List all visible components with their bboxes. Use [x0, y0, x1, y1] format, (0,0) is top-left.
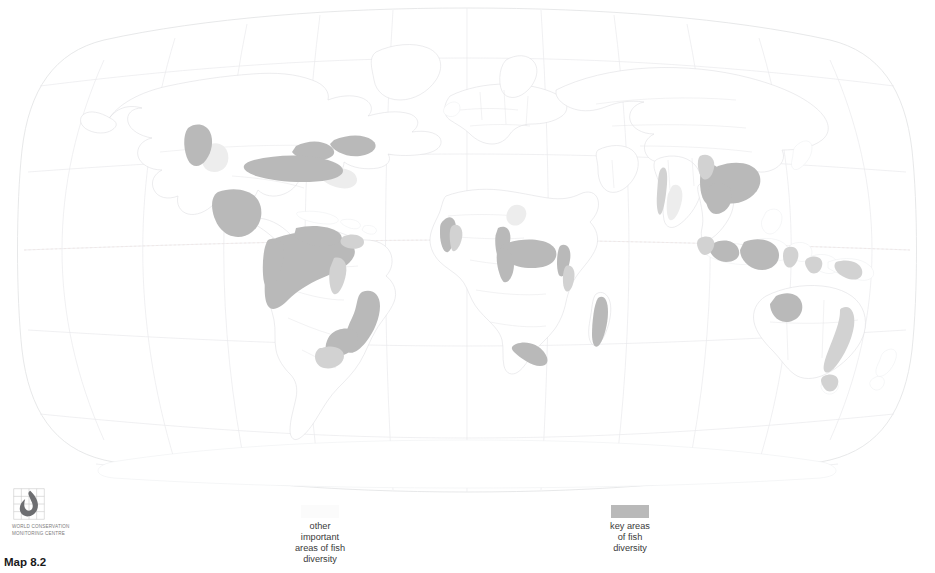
legend-item-other-important-areas: other important areas of fish diversity	[268, 505, 372, 564]
legend-swatch-key	[611, 505, 649, 518]
legend-label-other: other important areas of fish diversity	[268, 521, 372, 564]
wcmc-organisation-name: WORLD CONSERVATION MONITORING CENTRE	[12, 524, 98, 537]
world-map	[0, 0, 935, 500]
legend-label-key: key areas of fish diversity	[578, 521, 682, 554]
map-caption: Map 8.2	[4, 556, 46, 568]
map-figure: other important areas of fish diversity …	[0, 0, 935, 573]
legend-swatch-other	[301, 505, 339, 518]
wcmc-leaf-icon	[12, 487, 46, 521]
wcmc-logo: WORLD CONSERVATION MONITORING CENTRE	[12, 487, 98, 537]
legend-item-key-areas: key areas of fish diversity	[578, 505, 682, 554]
